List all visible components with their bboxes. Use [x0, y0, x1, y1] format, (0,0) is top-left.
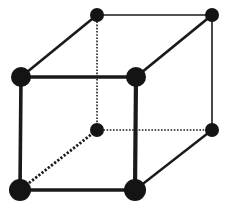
node-front-bottom-right: [124, 179, 146, 201]
node-back-top-right: [205, 8, 219, 22]
cube-diagram: [0, 0, 227, 205]
cube-nodes: [9, 8, 219, 201]
edge-back-top-right-to-front-top-right: [136, 15, 212, 77]
node-back-top-left: [90, 8, 104, 22]
node-back-bottom-right: [205, 123, 219, 137]
edge-front-top-right-to-front-bottom-right: [135, 77, 136, 190]
edge-back-bottom-left-to-front-bottom-left: [20, 130, 97, 190]
cube-diagram-canvas: [0, 0, 227, 205]
edge-front-top-left-to-front-bottom-left: [20, 77, 21, 190]
edge-back-top-left-to-front-top-left: [21, 15, 97, 77]
node-front-bottom-left: [9, 179, 31, 201]
node-back-bottom-left: [90, 123, 104, 137]
cube-edges: [20, 15, 212, 190]
edge-back-bottom-right-to-front-bottom-right: [135, 130, 212, 190]
node-front-top-right: [126, 67, 146, 87]
node-front-top-left: [11, 67, 31, 87]
